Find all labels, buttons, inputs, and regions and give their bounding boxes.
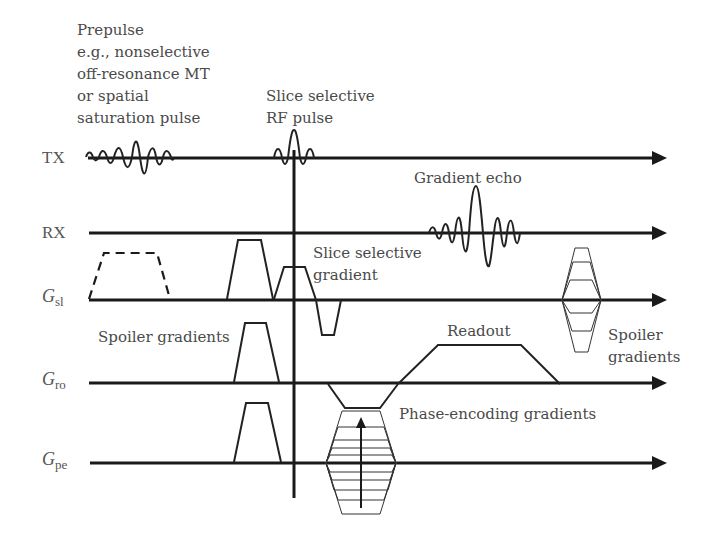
gro-prephaser-gradient bbox=[328, 384, 398, 408]
axis-label-gsl: G sl bbox=[42, 286, 64, 309]
readout-annotation: Readout bbox=[447, 322, 510, 340]
axis-label-rx: RX bbox=[42, 223, 66, 242]
spoiler-gradients-left-annotation: Spoiler gradients bbox=[98, 328, 230, 346]
gsl-spoiler-gradient bbox=[227, 240, 273, 299]
gpe-spoiler-gradient bbox=[234, 403, 281, 462]
rx-arrowhead-icon bbox=[652, 226, 667, 240]
spoiler-gradients-right-annotation: Spoiler gradients bbox=[608, 326, 680, 366]
gro-spoiler-gradient bbox=[234, 323, 279, 382]
svg-text:G: G bbox=[42, 369, 55, 389]
svg-text:or spatial: or spatial bbox=[77, 87, 149, 105]
svg-text:Spoiler: Spoiler bbox=[608, 326, 663, 344]
svg-text:saturation pulse: saturation pulse bbox=[77, 109, 200, 127]
svg-text:pe: pe bbox=[55, 457, 68, 472]
gro-readout-gradient bbox=[398, 345, 560, 384]
axis-label-gro: G ro bbox=[42, 369, 66, 392]
phase-encoding-arrowhead-icon bbox=[356, 417, 366, 428]
gpe-arrowhead-icon bbox=[652, 456, 667, 470]
svg-text:Slice selective: Slice selective bbox=[266, 87, 375, 105]
svg-text:ro: ro bbox=[55, 377, 66, 392]
svg-text:RF pulse: RF pulse bbox=[266, 109, 333, 127]
gsl-arrowhead-icon bbox=[652, 293, 667, 307]
svg-text:e.g., nonselective: e.g., nonselective bbox=[77, 43, 210, 61]
gradient-echo-waveform bbox=[429, 186, 520, 266]
svg-text:Slice selective: Slice selective bbox=[313, 244, 422, 262]
slice-gradient-annotation: Slice selective gradient bbox=[313, 244, 422, 284]
axis-label-tx: TX bbox=[42, 148, 65, 167]
gsl-prepulse-gradient-dashed bbox=[89, 253, 170, 299]
prepulse-annotation: Prepulse e.g., nonselective off-resonanc… bbox=[77, 21, 210, 127]
tx-arrowhead-icon bbox=[652, 151, 667, 165]
axis-label-gpe: G pe bbox=[42, 449, 68, 472]
svg-text:gradients: gradients bbox=[608, 348, 680, 366]
gro-arrowhead-icon bbox=[652, 376, 667, 390]
svg-text:G: G bbox=[42, 449, 55, 469]
svg-text:G: G bbox=[42, 286, 55, 306]
svg-text:off-resonance MT: off-resonance MT bbox=[77, 65, 210, 83]
svg-text:gradient: gradient bbox=[313, 266, 378, 284]
phase-encoding-annotation: Phase-encoding gradients bbox=[399, 405, 596, 423]
gradient-echo-annotation: Gradient echo bbox=[414, 169, 522, 187]
pulse-sequence-diagram: TX RX G sl G ro G pe bbox=[0, 0, 710, 540]
svg-text:sl: sl bbox=[55, 294, 64, 309]
svg-text:Prepulse: Prepulse bbox=[77, 21, 144, 39]
rf-pulse-annotation: Slice selective RF pulse bbox=[266, 87, 375, 127]
